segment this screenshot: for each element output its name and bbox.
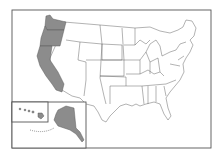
us-map [0,0,222,155]
hawaii-inset-frame [12,102,48,122]
